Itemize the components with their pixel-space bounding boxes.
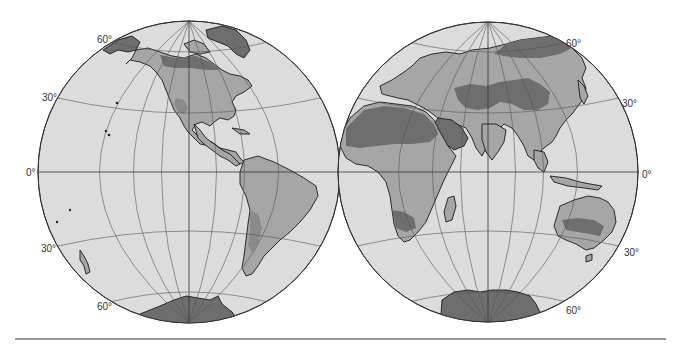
label-lat-30n-east: 30° — [622, 98, 637, 109]
label-lat-60n-east: 60° — [566, 38, 581, 49]
label-lat-60n-west: 60° — [97, 34, 112, 45]
label-lat-30s-east: 30° — [624, 247, 639, 258]
label-equator-west: 0° — [26, 167, 36, 178]
world-map: 60° 30° 0° 30° 60° — [0, 0, 680, 348]
label-equator-east: 0° — [642, 169, 652, 180]
label-lat-30s-west: 30° — [41, 243, 56, 254]
western-hemisphere: 60° 30° 0° 30° 60° — [26, 21, 340, 330]
label-lat-60s-east: 60° — [566, 305, 581, 316]
label-lat-60s-west: 60° — [97, 301, 112, 312]
hawaii — [108, 134, 111, 137]
label-lat-30n-west: 30° — [42, 92, 57, 103]
antarctica-east — [440, 290, 540, 330]
pacific-island — [56, 221, 58, 223]
eastern-hemisphere: 60° 30° 0° 30° 60° — [338, 21, 652, 330]
pacific-island — [69, 209, 71, 211]
